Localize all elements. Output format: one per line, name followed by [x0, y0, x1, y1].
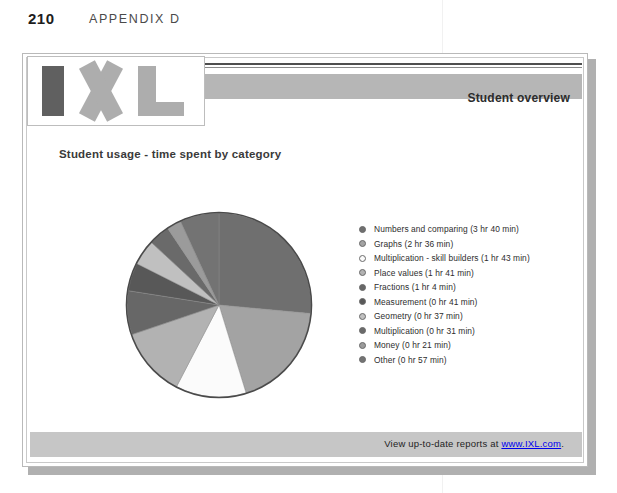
legend-item-label: Measurement (0 hr 41 min) — [374, 297, 478, 307]
legend-item[interactable]: Measurement (0 hr 41 min) — [359, 295, 574, 310]
legend-swatch-icon — [359, 269, 366, 276]
legend-item[interactable]: Graphs (2 hr 36 min) — [359, 237, 574, 252]
legend-swatch-icon — [359, 298, 366, 305]
logo-letter-x — [72, 66, 132, 116]
legend-item-label: Numbers and comparing (3 hr 40 min) — [374, 224, 519, 234]
legend-item[interactable]: Geometry (0 hr 37 min) — [359, 309, 574, 324]
legend-item[interactable]: Other (0 hr 57 min) — [359, 353, 574, 368]
legend-item-label: Multiplication - skill builders (1 hr 43… — [374, 253, 530, 263]
frame-shadow-bottom — [28, 467, 596, 475]
logo-letter-i — [42, 66, 64, 116]
legend-item[interactable]: Place values (1 hr 41 min) — [359, 266, 574, 281]
header-rule-top — [180, 63, 582, 65]
legend-item-label: Money (0 hr 21 min) — [374, 340, 451, 350]
legend-swatch-icon — [359, 356, 366, 363]
legend-swatch-icon — [359, 240, 366, 247]
report-header-title: Student overview — [467, 91, 570, 105]
legend-item-label: Other (0 hr 57 min) — [374, 355, 447, 365]
chart-title: Student usage - time spent by category — [59, 148, 281, 160]
legend-swatch-icon — [359, 313, 366, 320]
logo-letter-l-horizontal — [138, 102, 184, 116]
legend-item[interactable]: Money (0 hr 21 min) — [359, 338, 574, 353]
legend-swatch-icon — [359, 255, 366, 262]
logo-letter-l — [138, 66, 188, 116]
book-page-header: 210 APPENDIX D — [0, 0, 617, 46]
pie-chart — [124, 210, 314, 400]
header-gray-band: Student overview — [180, 74, 582, 99]
legend-item[interactable]: Numbers and comparing (3 hr 40 min) — [359, 222, 574, 237]
footer-text: View up-to-date reports at www.IXL.com. — [384, 438, 564, 449]
legend-item-label: Multiplication (0 hr 31 min) — [374, 326, 475, 336]
legend-swatch-icon — [359, 226, 366, 233]
legend-item[interactable]: Fractions (1 hr 4 min) — [359, 280, 574, 295]
chart-legend: Numbers and comparing (3 hr 40 min)Graph… — [359, 222, 574, 367]
ixl-logo[interactable] — [27, 56, 205, 126]
ixl-logo-glyphs — [42, 66, 192, 116]
legend-swatch-icon — [359, 342, 366, 349]
report-footer-band: View up-to-date reports at www.IXL.com. — [30, 432, 582, 457]
page-number: 210 — [28, 10, 55, 27]
legend-item-label: Geometry (0 hr 37 min) — [374, 311, 463, 321]
legend-item[interactable]: Multiplication (0 hr 31 min) — [359, 324, 574, 339]
appendix-label: APPENDIX D — [89, 12, 181, 26]
frame-shadow-right — [588, 59, 596, 474]
pie-chart-svg — [124, 210, 314, 400]
pie-slice-group — [127, 213, 311, 397]
ixl-website-link[interactable]: www.IXL.com — [501, 438, 561, 449]
legend-item[interactable]: Multiplication - skill builders (1 hr 43… — [359, 251, 574, 266]
legend-item-label: Fractions (1 hr 4 min) — [374, 282, 456, 292]
legend-swatch-icon — [359, 327, 366, 334]
pie-slice — [219, 213, 311, 314]
legend-swatch-icon — [359, 284, 366, 291]
header-rule-thin — [180, 67, 582, 68]
legend-item-label: Graphs (2 hr 36 min) — [374, 239, 453, 249]
footer-prefix: View up-to-date reports at — [384, 438, 501, 449]
footer-suffix: . — [561, 438, 564, 449]
legend-item-label: Place values (1 hr 41 min) — [374, 268, 474, 278]
